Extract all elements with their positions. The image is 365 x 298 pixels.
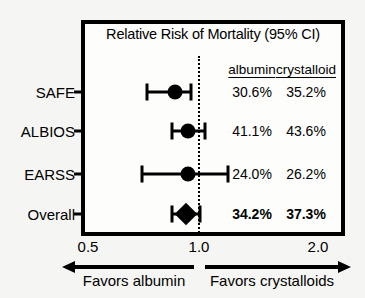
point-estimate-earss [181, 167, 196, 182]
row-tick-albios [74, 130, 82, 133]
plot-title: Relative Risk of Mortality (95% CI) [81, 26, 345, 42]
cell-albumin-earss: 24.0% [232, 166, 272, 182]
column-header-crystalloid: crystalloid [276, 62, 336, 78]
ci-cap-high-safe [190, 84, 193, 101]
forest-plot-figure: Relative Risk of Mortality (95% CI) albu… [0, 0, 365, 298]
axis-tick-1-0: 1.0 [189, 238, 210, 255]
row-label-overall: Overall [0, 206, 75, 223]
row-tick-safe [74, 91, 82, 94]
row-tick-overall [74, 213, 82, 216]
left-arrow-caption: Favors albumin [83, 272, 186, 289]
right-arrow-bar [205, 265, 338, 269]
ci-cap-low-earss [141, 166, 144, 183]
cell-crystalloid-safe: 35.2% [286, 84, 326, 100]
ci-cap-low-overall [171, 206, 174, 223]
cell-crystalloid-earss: 26.2% [286, 166, 326, 182]
cell-albumin-albios: 41.1% [232, 123, 272, 139]
row-label-albios: ALBIOS [0, 123, 75, 140]
left-arrow-bar [74, 265, 194, 269]
cell-crystalloid-overall: 37.3% [286, 206, 326, 222]
right-arrow-caption: Favors crystalloids [210, 272, 334, 289]
point-estimate-albios [181, 124, 196, 139]
ci-cap-high-albios [204, 123, 207, 140]
ci-cap-high-overall [199, 206, 202, 223]
cell-albumin-safe: 30.6% [232, 84, 272, 100]
ci-cap-low-albios [171, 123, 174, 140]
cell-crystalloid-albios: 43.6% [286, 123, 326, 139]
axis-tick-0-5: 0.5 [78, 238, 99, 255]
row-tick-earss [74, 173, 82, 176]
axis-tick-2-0: 2.0 [308, 238, 329, 255]
ci-cap-high-earss [227, 166, 230, 183]
cell-albumin-overall: 34.2% [232, 206, 272, 222]
column-header-albumin: albumin [228, 62, 275, 78]
point-estimate-safe [168, 85, 183, 100]
row-label-earss: EARSS [0, 166, 75, 183]
right-arrow-icon [338, 261, 351, 273]
row-label-safe: SAFE [0, 84, 75, 101]
ci-cap-low-safe [146, 84, 149, 101]
